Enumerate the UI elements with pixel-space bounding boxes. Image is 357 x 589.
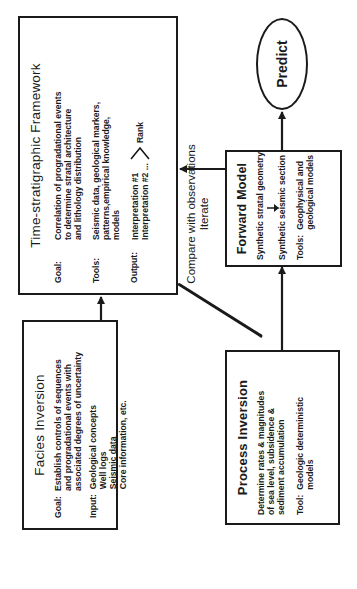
connector-overlay <box>0 0 357 589</box>
arrow-framework-to-process <box>179 284 262 336</box>
workflow-diagram: Facies Inversion Goal: Establish control… <box>0 0 357 589</box>
